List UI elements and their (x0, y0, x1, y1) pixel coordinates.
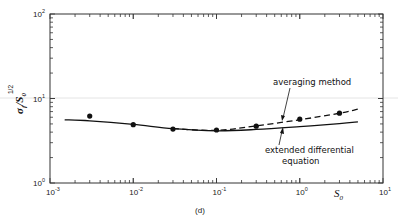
y-tick-label: 102 (33, 8, 45, 19)
y-tick-label: 101 (33, 93, 45, 104)
tick-labels: 10-310-210-1100101100101102 (33, 8, 391, 197)
x-tick-label: 10-3 (46, 186, 60, 197)
data-point (214, 127, 219, 132)
chart: 10-310-210-1100101100101102 averaging me… (0, 0, 398, 224)
annotation-extended-line2: equation (282, 156, 320, 166)
data-point (87, 113, 92, 118)
data-point (297, 117, 302, 122)
x-tick-label: 10-2 (129, 186, 143, 197)
annotation-extended-line1: extended differential (265, 145, 354, 155)
data-point (337, 111, 342, 116)
series-averaging-method (173, 109, 358, 130)
annotation-arrow-averaging (283, 88, 290, 118)
data-point (131, 122, 136, 127)
arrowhead-averaging (281, 115, 285, 121)
y-tick-label: 100 (33, 177, 45, 188)
series-layer (65, 109, 358, 131)
svg-text:σf/S0: σf/S0 (13, 93, 28, 114)
y-axis-title: σf/S0 1/2 (7, 85, 28, 114)
svg-text:1/2: 1/2 (7, 85, 14, 94)
series-extended-differential-equation (65, 120, 358, 131)
figure-caption: (d) (195, 206, 205, 215)
x-tick-label: 101 (379, 186, 391, 197)
data-point (254, 124, 259, 129)
points-layer (87, 111, 342, 133)
x-tick-label: 10-1 (213, 186, 227, 197)
annotation-averaging-method: averaging method (273, 77, 351, 87)
x-axis-title: S0 (334, 187, 344, 202)
x-tick-label: 100 (296, 186, 308, 197)
data-point (170, 126, 175, 131)
